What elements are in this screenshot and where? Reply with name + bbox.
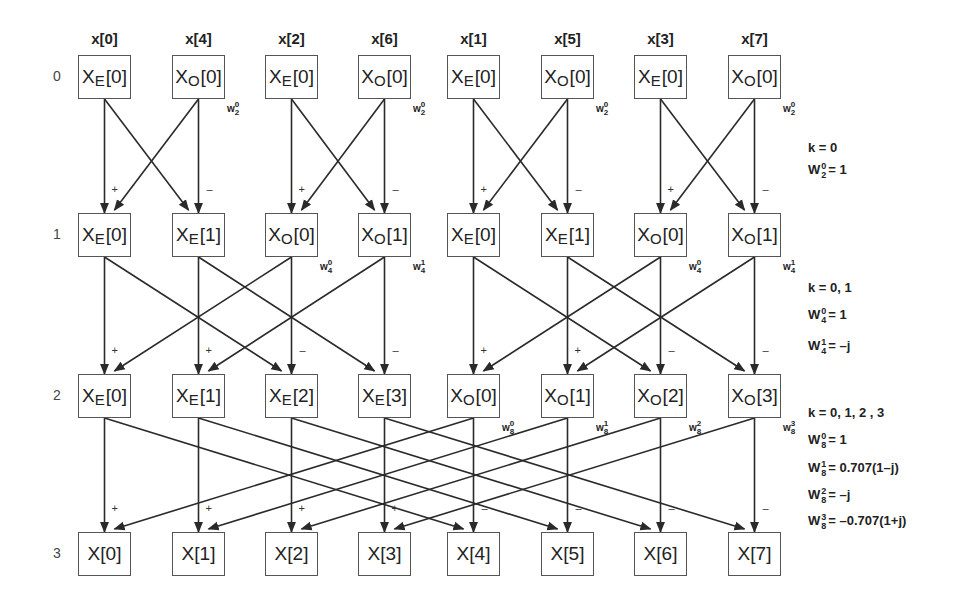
twiddle-n: 8	[821, 496, 826, 505]
node-base: X	[176, 385, 189, 407]
node-base: X	[82, 66, 95, 88]
twiddle-symbol: W	[808, 432, 820, 447]
wire	[484, 257, 661, 371]
twiddle-value: = 1	[828, 432, 846, 447]
node-index: [0]	[106, 224, 127, 246]
twiddle-symbol: w	[502, 422, 510, 433]
twiddle-value: = 1	[828, 307, 846, 322]
twiddle-n: 8	[510, 428, 514, 436]
twiddle-symbol: w	[783, 103, 791, 114]
plus-sign: +	[575, 344, 581, 356]
node-index: [3]	[380, 543, 401, 565]
node-index: [1]	[757, 224, 778, 246]
twiddle-n: 4	[697, 267, 701, 275]
twiddle-value: = –j	[828, 338, 850, 353]
node-subscript: O	[650, 230, 662, 247]
node-base: X	[275, 543, 288, 565]
node-index: [1]	[194, 543, 215, 565]
twiddle-n: 2	[604, 109, 608, 117]
node-base: X	[545, 224, 558, 246]
minus-sign: –	[763, 344, 769, 356]
node-subscript: O	[374, 230, 386, 247]
butterfly-wires	[105, 99, 755, 532]
node-base: X	[551, 543, 564, 565]
plus-sign: +	[299, 502, 305, 514]
butterfly-node: X[3]	[358, 532, 411, 576]
butterfly-node: X[6]	[634, 532, 687, 576]
input-label: x[3]	[631, 30, 691, 47]
node-base: X	[544, 385, 557, 407]
node-index: [2]	[663, 385, 684, 407]
node-index: [3]	[386, 385, 407, 407]
plus-sign: +	[481, 344, 487, 356]
wire	[568, 257, 745, 371]
node-base: X	[450, 385, 463, 407]
twiddle-exp: 02	[791, 101, 795, 117]
node-subscript: O	[744, 72, 756, 89]
node-base: X	[182, 543, 195, 565]
twiddle-symbol: W	[808, 460, 820, 475]
twiddle-equation: W04= 1	[808, 307, 847, 325]
butterfly-node: XE[3]	[358, 374, 411, 418]
wire	[474, 257, 651, 371]
plus-sign: +	[112, 183, 118, 195]
butterfly-node: XO[2]	[634, 374, 687, 418]
node-index: [0]	[106, 385, 127, 407]
node-subscript: E	[464, 72, 474, 89]
node-index: [0]	[387, 66, 408, 88]
input-label: x[5]	[538, 30, 598, 47]
twiddle-value: = 1	[828, 162, 846, 177]
butterfly-node: X[7]	[728, 532, 781, 576]
plus-sign: +	[668, 183, 674, 195]
butterfly-node: X[5]	[541, 532, 594, 576]
butterfly-node: X[2]	[265, 532, 318, 576]
wire	[105, 257, 282, 371]
node-subscript: E	[189, 230, 199, 247]
node-base: X	[644, 543, 657, 565]
twiddle-symbol: w	[320, 261, 328, 272]
twiddle-n: 4	[791, 267, 795, 275]
node-base: X	[637, 385, 650, 407]
node-base: X	[269, 66, 282, 88]
butterfly-node: XE[0]	[78, 374, 131, 418]
twiddle-equation: W18= 0.707(1–j)	[808, 460, 899, 478]
node-subscript: E	[95, 391, 105, 408]
input-label: x[1]	[444, 30, 504, 47]
node-index: [0]	[757, 66, 778, 88]
input-label: x[7]	[725, 30, 785, 47]
butterfly-node: XO[3]	[728, 374, 781, 418]
node-index: [2]	[287, 543, 308, 565]
twiddle-symbol: w	[783, 422, 791, 433]
node-base: X	[451, 224, 464, 246]
twiddle-symbol: W	[808, 338, 820, 353]
twiddle-exp: 04	[821, 307, 826, 325]
butterfly-node: XE[2]	[265, 374, 318, 418]
twiddle-n: 8	[791, 428, 795, 436]
butterfly-node: X[4]	[447, 532, 500, 576]
node-subscript: E	[95, 72, 105, 89]
stage-label: 1	[53, 226, 61, 242]
minus-sign: –	[669, 502, 675, 514]
node-base: X	[82, 385, 95, 407]
twiddle-n: 4	[421, 267, 425, 275]
node-index: [0]	[294, 224, 315, 246]
twiddle-equation: W28= –j	[808, 487, 850, 505]
node-base: X	[361, 66, 374, 88]
minus-sign: –	[393, 344, 399, 356]
butterfly-node: XE[0]	[78, 213, 131, 257]
twiddle-symbol: W	[808, 487, 820, 502]
node-subscript: O	[188, 72, 200, 89]
wire	[115, 99, 199, 210]
node-base: X	[82, 224, 95, 246]
twiddle-n: 2	[421, 109, 425, 117]
twiddle-exp: 14	[791, 259, 795, 275]
node-index: [0]	[570, 66, 591, 88]
butterfly-node: XO[1]	[358, 213, 411, 257]
minus-sign: –	[482, 502, 488, 514]
twiddle-n: 4	[328, 267, 332, 275]
wire	[209, 257, 385, 371]
plus-sign: +	[112, 344, 118, 356]
twiddle-n: 8	[821, 441, 826, 450]
node-base: X	[269, 385, 282, 407]
node-base: X	[451, 66, 464, 88]
